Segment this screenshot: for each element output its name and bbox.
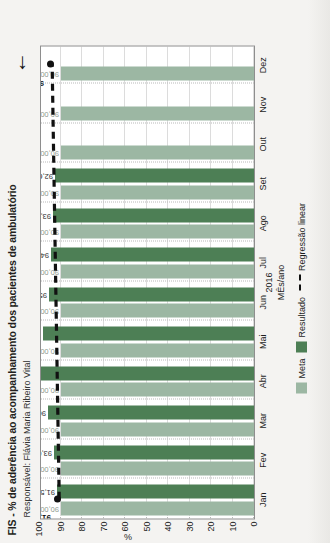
y-axis-tick-label: 70 (99, 521, 109, 543)
y-axis-tick-label: 30 (185, 521, 195, 543)
regression-start-point (54, 495, 61, 502)
x-axis-year: 2016 (264, 45, 274, 519)
legend-label-regressao: Regressão linear (297, 202, 307, 270)
chart-legend: Meta Resultado Regressão linear (296, 202, 307, 393)
legend-label-meta: Meta (297, 358, 307, 378)
legend-item-regressao[interactable]: Regressão linear (297, 202, 307, 290)
legend-swatch-meta-icon (296, 382, 307, 393)
chart-subtitle: Responsável: Flávia Maria Ribeiro Vital (22, 360, 32, 517)
regression-start-label: 91,53 (41, 512, 51, 518)
y-axis-tick-label: 40 (163, 521, 173, 543)
plot-inner: 90,0091,5390,0093,0090,0096,0090,00100,0… (41, 46, 254, 518)
regression-end-point (47, 60, 54, 67)
y-axis-tick-label: 80 (77, 521, 87, 543)
chart-title: FIS - % de aderência ao acompanhamento d… (6, 184, 18, 535)
legend-item-meta[interactable]: Meta (296, 358, 307, 393)
y-axis-tick-label: 50 (142, 521, 152, 543)
highlight-arrow-icon: ← (8, 51, 30, 73)
rotated-figure-wrapper: FIS - % de aderência ao acompanhamento d… (0, 0, 330, 543)
page-background: FIS - % de aderência ao acompanhamento d… (0, 0, 330, 543)
y-axis-tick-label: 20 (206, 521, 216, 543)
y-axis-tick-label: 100 (34, 521, 44, 543)
y-axis-label: % (124, 531, 132, 541)
y-axis-tick-label: 0 (249, 521, 259, 543)
legend-dashed-line-icon (299, 274, 301, 290)
plot-area: 90,0091,5390,0093,0090,0096,0090,00100,0… (40, 45, 255, 519)
regression-line (41, 46, 254, 518)
chart-figure: FIS - % de aderência ao acompanhamento d… (0, 0, 330, 543)
legend-label-resultado: Resultado (297, 296, 307, 337)
y-axis-tick-label: 90 (56, 521, 66, 543)
legend-swatch-resultado-icon (296, 341, 307, 352)
legend-item-resultado[interactable]: Resultado (296, 296, 307, 352)
x-axis-title: MÊs/ano (276, 45, 286, 519)
regression-end-label: 94,81 (41, 78, 44, 87)
y-axis-tick-label: 10 (228, 521, 238, 543)
